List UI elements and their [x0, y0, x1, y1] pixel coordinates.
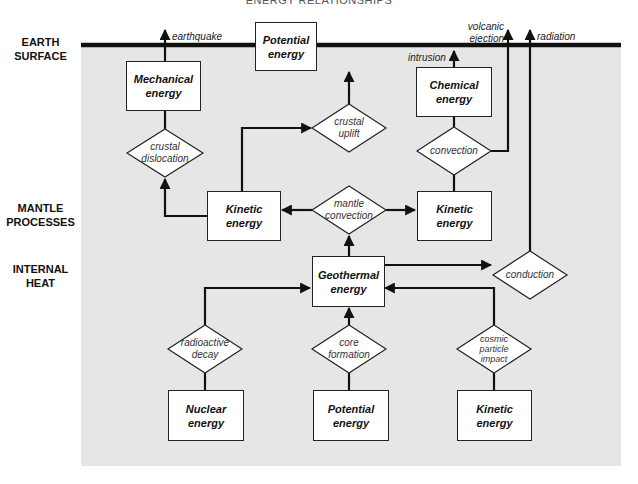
box-label: energy	[333, 416, 369, 430]
process-convection: convection	[417, 127, 491, 175]
process-crustal-uplift: crustal uplift	[312, 104, 386, 152]
box-label: Kinetic	[436, 202, 473, 216]
box-label: energy	[436, 216, 472, 230]
box-label: energy	[145, 86, 181, 100]
process-label: convection	[430, 145, 478, 157]
output-intrusion: intrusion	[408, 52, 446, 64]
box-kinetic-energy-left: Kinetic energy	[207, 191, 281, 241]
box-geothermal-energy: Geothermal energy	[312, 256, 385, 307]
box-label: energy	[268, 47, 304, 61]
process-label: uplift	[338, 128, 359, 140]
box-potential-energy-core: Potential energy	[313, 390, 389, 441]
process-conduction: conduction	[493, 251, 567, 299]
process-crustal-dislocation: crustal dislocation	[127, 129, 203, 177]
process-label: decay	[192, 349, 219, 361]
process-core-formation: core formation	[312, 325, 386, 373]
process-label: crustal	[150, 141, 179, 153]
box-label: Kinetic	[476, 402, 513, 416]
box-label: energy	[226, 216, 262, 230]
process-label: crustal	[334, 116, 363, 128]
box-chemical-energy: Chemical energy	[416, 67, 492, 117]
box-label: Potential	[328, 402, 374, 416]
box-label: Potential	[263, 33, 309, 47]
process-label: impact	[481, 354, 508, 364]
process-label: cosmic	[480, 334, 508, 344]
process-label: formation	[328, 349, 370, 361]
process-cosmic-particle-impact: cosmic particle impact	[457, 325, 531, 373]
process-radioactive-decay: radioactive decay	[168, 325, 242, 373]
box-label: energy	[476, 416, 512, 430]
output-radiation: radiation	[537, 31, 575, 43]
box-label: energy	[330, 282, 366, 296]
output-earthquake: earthquake	[172, 31, 222, 43]
box-label: Chemical	[430, 78, 479, 92]
box-kinetic-energy-right: Kinetic energy	[417, 191, 492, 241]
process-label: conduction	[506, 269, 554, 281]
box-kinetic-energy-cosmic: Kinetic energy	[457, 390, 532, 441]
box-potential-energy-surface: Potential energy	[255, 22, 317, 71]
box-label: Geothermal	[318, 268, 379, 282]
box-nuclear-energy: Nuclear energy	[168, 390, 244, 441]
box-label: energy	[436, 92, 472, 106]
process-mantle-convection: mantle convection	[312, 186, 386, 234]
process-label: core	[339, 337, 358, 349]
box-label: Mechanical	[134, 72, 193, 86]
annotation-line: volcanic	[466, 21, 504, 33]
process-label: mantle	[334, 198, 364, 210]
annotation-line: ejection	[466, 33, 504, 45]
process-label: dislocation	[141, 153, 188, 165]
process-label: particle	[479, 344, 508, 354]
box-label: Nuclear	[186, 402, 226, 416]
box-label: Kinetic	[226, 202, 263, 216]
output-volcanic-ejection: volcanic ejection	[466, 21, 504, 45]
box-mechanical-energy: Mechanical energy	[126, 61, 201, 111]
box-label: energy	[188, 416, 224, 430]
process-label: radioactive	[181, 337, 229, 349]
process-label: convection	[325, 210, 373, 222]
